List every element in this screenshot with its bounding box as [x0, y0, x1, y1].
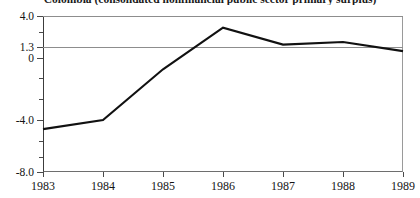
gridline-4-0 — [43, 16, 403, 17]
y-tick-label-0: 0 — [28, 52, 34, 64]
x-tick-label-1987: 1987 — [260, 179, 306, 193]
chart-figure: Colombia (consolidated nonfinancial publ… — [0, 0, 420, 198]
y-tick-label--8-0: -8.0 — [16, 166, 34, 178]
y-tick-label-4-0: 4.0 — [20, 10, 34, 22]
x-tick-label-1985: 1985 — [140, 179, 186, 193]
y-tick-mark-0 — [37, 58, 43, 59]
chart-title: Colombia (consolidated nonfinancial publ… — [0, 0, 420, 5]
x-tick-label-1983: 1983 — [20, 179, 66, 193]
y-minor-tick-2-65 — [39, 32, 43, 33]
plot-area — [43, 16, 403, 172]
x-tick-mark-1985 — [163, 172, 164, 177]
x-tick-mark-1987 — [283, 172, 284, 177]
x-tick-label-1984: 1984 — [80, 179, 126, 193]
y-tick-mark-4-0 — [37, 16, 43, 17]
x-tick-mark-1988 — [343, 172, 344, 177]
x-tick-mark-1989 — [403, 172, 404, 177]
x-tick-mark-1983 — [43, 172, 44, 177]
x-tick-mark-1986 — [223, 172, 224, 177]
y-minor-tick--2-65 — [39, 99, 43, 100]
y-minor-tick--5-3 — [39, 141, 43, 142]
gridline-1-3 — [43, 47, 403, 48]
x-tick-label-1986: 1986 — [200, 179, 246, 193]
x-tick-mark-1984 — [103, 172, 104, 177]
y-minor-tick--1-3 — [39, 78, 43, 79]
x-tick-label-1989: 1989 — [380, 179, 420, 193]
y-tick-mark-1-3 — [37, 47, 43, 48]
y-tick-label--4-0: -4.0 — [16, 114, 34, 126]
y-tick-mark--4-0 — [37, 120, 43, 121]
y-minor-tick--6-65 — [39, 157, 43, 158]
x-tick-label-1988: 1988 — [320, 179, 366, 193]
